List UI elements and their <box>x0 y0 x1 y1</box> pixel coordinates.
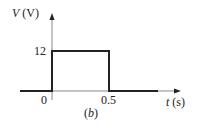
x-tick-0-5: 0.5 <box>101 94 116 106</box>
x-axis-arrow-icon <box>174 89 181 94</box>
y-axis-label: V (V) <box>12 7 39 19</box>
figure-caption: (b) <box>84 107 98 119</box>
y-tick-12: 12 <box>34 45 46 57</box>
y-axis-arrow-icon <box>50 13 55 20</box>
x-axis-label: t (s) <box>166 96 185 108</box>
x-tick-0: 0 <box>41 94 47 106</box>
